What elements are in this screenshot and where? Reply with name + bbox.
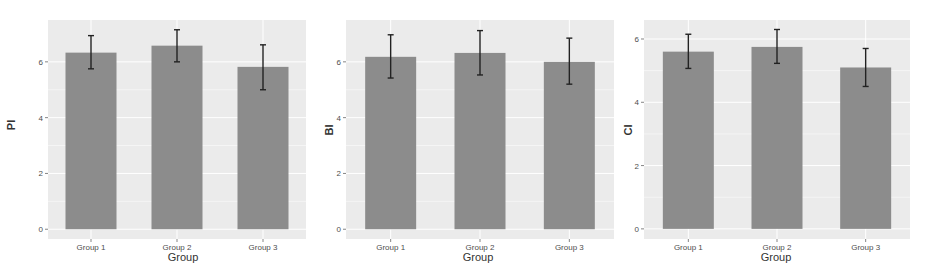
y-tick-label: 4 — [39, 114, 44, 123]
x-tick-label: Group 3 — [555, 243, 584, 252]
y-tick-label: 4 — [635, 98, 640, 107]
y-tick-label: 0 — [635, 225, 640, 234]
chart-panel-pi: 0246Group 1Group 2Group 3 PI Group — [0, 0, 310, 279]
bar-group-2 — [455, 53, 506, 229]
y-tick-label: 6 — [337, 58, 342, 67]
plot-svg: 0246Group 1Group 2Group 3 — [620, 0, 935, 279]
y-tick-label: 4 — [337, 114, 342, 123]
plot-svg: 0246Group 1Group 2Group 3 — [310, 0, 620, 279]
y-axis-title: BI — [323, 125, 335, 136]
bar-group-1 — [365, 57, 416, 229]
bar-group-2 — [752, 47, 803, 229]
bar-group-2 — [152, 46, 203, 230]
bar-group-1 — [66, 53, 117, 230]
y-tick-label: 6 — [39, 58, 44, 67]
x-axis-title: Group — [443, 251, 513, 263]
y-tick-label: 2 — [39, 169, 44, 178]
plot-svg: 0246Group 1Group 2Group 3 — [0, 0, 310, 279]
y-axis-title: CI — [622, 125, 634, 136]
y-tick-label: 0 — [39, 225, 44, 234]
y-tick-label: 2 — [635, 162, 640, 171]
x-tick-label: Group 1 — [77, 243, 106, 252]
chart-panel-ci: 0246Group 1Group 2Group 3 CI Group — [620, 0, 935, 279]
x-tick-label: Group 3 — [249, 243, 278, 252]
bar-group-3 — [840, 67, 891, 228]
x-axis-title: Group — [148, 251, 218, 263]
bar-group-3 — [544, 62, 595, 229]
x-tick-label: Group 1 — [674, 243, 703, 252]
x-tick-label: Group 3 — [851, 243, 880, 252]
y-tick-label: 2 — [337, 169, 342, 178]
bar-group-1 — [663, 52, 714, 229]
x-tick-label: Group 1 — [376, 243, 405, 252]
chart-panel-bi: 0246Group 1Group 2Group 3 BI Group — [310, 0, 620, 279]
y-tick-label: 0 — [337, 225, 342, 234]
y-axis-title: PI — [5, 120, 17, 130]
y-tick-label: 6 — [635, 35, 640, 44]
bar-group-3 — [238, 67, 289, 229]
x-axis-title: Group — [741, 251, 811, 263]
